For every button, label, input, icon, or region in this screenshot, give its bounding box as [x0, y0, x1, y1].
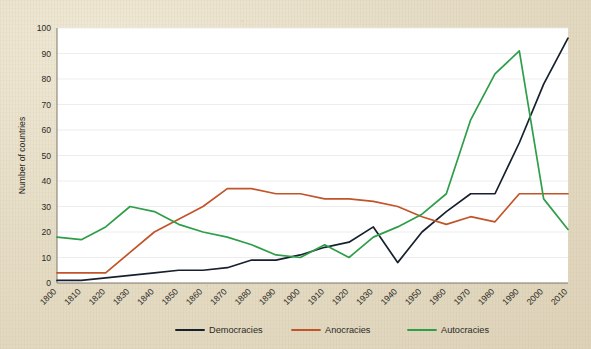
chart-svg: 0102030405060708090100Number of countrie…	[0, 0, 591, 349]
x-axis-tick-label: 1820	[86, 286, 107, 307]
x-axis-tick-label: 1980	[476, 286, 497, 307]
y-axis-tick-label: 20	[41, 227, 51, 237]
x-axis-tick-label: 1800	[38, 286, 59, 307]
x-axis-tick-label: 1970	[451, 286, 472, 307]
x-axis-tick-label: 1990	[500, 286, 521, 307]
legend-label-democracies: Democracies	[209, 325, 263, 335]
x-axis-tick-label: 1810	[62, 286, 83, 307]
x-axis-tick-label: 1960	[427, 286, 448, 307]
x-axis-tick-label: 1950	[403, 286, 424, 307]
y-axis-tick-label: 50	[41, 151, 51, 161]
x-axis-tick-label: 1890	[257, 286, 278, 307]
y-axis-title: Number of countries	[17, 117, 27, 194]
y-axis-tick-label: 30	[41, 202, 51, 212]
x-axis-tick-label: 2010	[549, 286, 570, 307]
y-axis-tick-label: 70	[41, 100, 51, 110]
x-axis-tick-label: 1860	[184, 286, 205, 307]
x-axis-tick-label: 1850	[159, 286, 180, 307]
y-axis-tick-label: 60	[41, 125, 51, 135]
x-axis-tick-label: 1870	[208, 286, 229, 307]
x-axis-tick-label: 1920	[330, 286, 351, 307]
x-axis-tick-label: 1840	[135, 286, 156, 307]
line-chart: 0102030405060708090100Number of countrie…	[0, 0, 591, 349]
x-axis-tick-label: 2000	[524, 286, 545, 307]
y-axis-tick-label: 80	[41, 74, 51, 84]
x-axis-tick-label: 1910	[305, 286, 326, 307]
y-axis-tick-label: 90	[41, 49, 51, 59]
x-axis-tick-label: 1900	[281, 286, 302, 307]
y-axis-tick-label: 10	[41, 253, 51, 263]
x-axis-tick-label: 1830	[111, 286, 132, 307]
x-axis-tick-label: 1930	[354, 286, 375, 307]
y-axis-tick-label: 100	[37, 23, 52, 33]
y-axis-tick-label: 40	[41, 176, 51, 186]
legend-label-autocracies: Autocracies	[441, 325, 489, 335]
x-axis-tick-label: 1880	[232, 286, 253, 307]
x-axis-tick-label: 1940	[378, 286, 399, 307]
legend-label-anocracies: Anocracies	[325, 325, 371, 335]
